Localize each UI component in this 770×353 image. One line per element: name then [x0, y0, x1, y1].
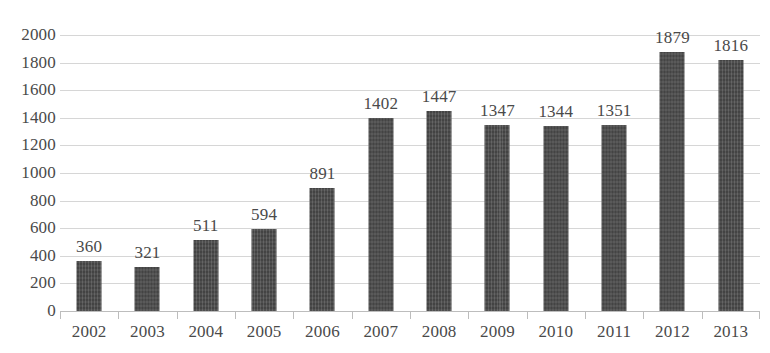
bar-value-label: 1402 — [363, 95, 398, 112]
bar[interactable] — [368, 118, 393, 311]
x-axis-category-label: 2005 — [235, 322, 293, 342]
bar-value-label: 891 — [309, 165, 335, 182]
bar-slot: 1402 — [352, 35, 410, 311]
x-axis-tick — [293, 311, 294, 319]
bar-slot: 891 — [293, 35, 351, 311]
bar-slot: 360 — [60, 35, 118, 311]
plot-area: 3603215115948911402144713471344135118791… — [60, 35, 760, 311]
bar[interactable] — [135, 267, 160, 311]
bar-value-label: 1816 — [713, 37, 748, 54]
x-axis-category-label: 2003 — [118, 322, 176, 342]
x-axis-tick — [352, 311, 353, 319]
bar[interactable] — [543, 126, 568, 311]
x-axis-category-label: 2013 — [702, 322, 760, 342]
bar[interactable] — [660, 52, 685, 311]
x-axis-category-label: 2006 — [293, 322, 351, 342]
y-axis-tick-label: 1000 — [0, 164, 56, 181]
bar[interactable] — [718, 60, 743, 311]
bar-slot: 1447 — [410, 35, 468, 311]
x-axis-category-label: 2011 — [585, 322, 643, 342]
bar-slot: 1347 — [468, 35, 526, 311]
x-axis-category-label: 2007 — [352, 322, 410, 342]
bar-value-label: 594 — [251, 206, 277, 223]
bar-slot: 1816 — [702, 35, 760, 311]
y-axis-tick-label: 800 — [0, 192, 56, 209]
x-axis-category-label: 2002 — [60, 322, 118, 342]
bar[interactable] — [427, 111, 452, 311]
bar-value-label: 511 — [193, 217, 218, 234]
x-axis-category-label: 2012 — [643, 322, 701, 342]
x-axis-category-labels: 2002200320042005200620072008200920102011… — [60, 322, 760, 348]
x-axis-category-label: 2010 — [527, 322, 585, 342]
y-axis-tick-label: 600 — [0, 219, 56, 236]
y-axis-tick-label: 1800 — [0, 54, 56, 71]
bar[interactable] — [252, 229, 277, 311]
bar-value-label: 1344 — [538, 103, 573, 120]
y-axis-tick-label: 200 — [0, 274, 56, 291]
bar-value-label: 1351 — [597, 102, 632, 119]
x-axis-tick — [759, 311, 760, 319]
bar-slot: 1879 — [643, 35, 701, 311]
x-axis-tick — [468, 311, 469, 319]
x-axis-tick — [60, 311, 61, 319]
bar[interactable] — [310, 188, 335, 311]
y-axis-tick-label: 0 — [0, 302, 56, 319]
bar-slot: 594 — [235, 35, 293, 311]
x-axis-tick — [585, 311, 586, 319]
x-axis-category-label: 2009 — [468, 322, 526, 342]
y-axis-tick-labels: 2000180016001400120010008006004002000 — [0, 0, 56, 353]
bar-value-label: 1447 — [422, 88, 457, 105]
x-axis-category-label: 2004 — [177, 322, 235, 342]
bar-value-label: 321 — [134, 244, 160, 261]
x-axis-tick — [410, 311, 411, 319]
x-axis-category-label: 2008 — [410, 322, 468, 342]
x-axis-tick — [118, 311, 119, 319]
y-axis-tick-label: 400 — [0, 247, 56, 264]
bar[interactable] — [602, 125, 627, 311]
y-axis-tick-label: 2000 — [0, 26, 56, 43]
y-axis-tick-label: 1200 — [0, 136, 56, 153]
bar-slot: 321 — [118, 35, 176, 311]
x-axis-tick — [235, 311, 236, 319]
x-axis-tick-marks — [60, 311, 760, 319]
x-axis-tick — [177, 311, 178, 319]
y-axis-tick-label: 1600 — [0, 81, 56, 98]
bar-series: 3603215115948911402144713471344135118791… — [60, 35, 760, 311]
bar-value-label: 1347 — [480, 102, 515, 119]
y-axis-tick-label: 1400 — [0, 109, 56, 126]
bar-chart: 2000180016001400120010008006004002000 36… — [0, 0, 770, 353]
bar-slot: 1344 — [527, 35, 585, 311]
x-axis-tick — [702, 311, 703, 319]
bar[interactable] — [193, 240, 218, 311]
bar-slot: 1351 — [585, 35, 643, 311]
x-axis-tick — [643, 311, 644, 319]
bar[interactable] — [77, 261, 102, 311]
bar-value-label: 1879 — [655, 29, 690, 46]
bar-value-label: 360 — [76, 238, 102, 255]
x-axis-tick — [527, 311, 528, 319]
bar-slot: 511 — [177, 35, 235, 311]
bar[interactable] — [485, 125, 510, 311]
